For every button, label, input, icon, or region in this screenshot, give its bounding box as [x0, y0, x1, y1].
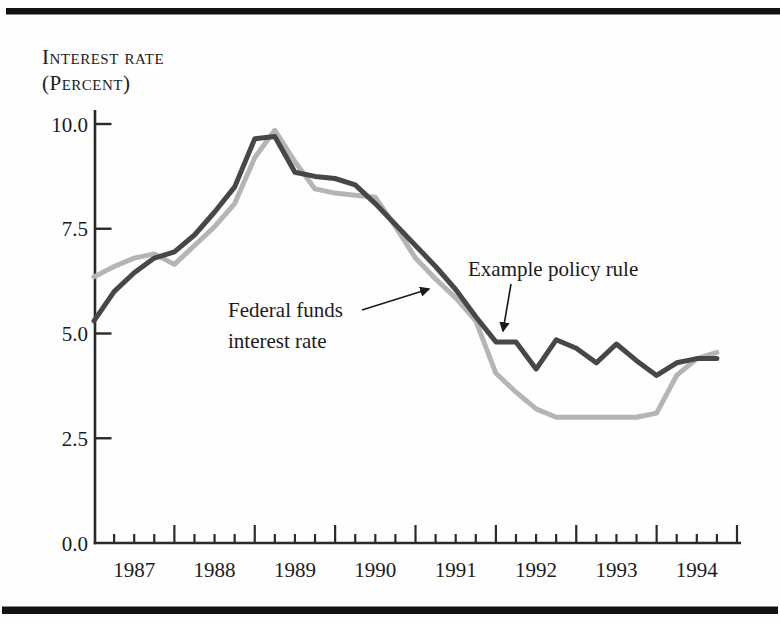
top-rule-bar: [6, 8, 780, 15]
series-line-policy-rule: [94, 137, 717, 376]
y-tick-label: 7.5: [62, 217, 88, 241]
interest-rate-chart: Interest rate (Percent) 10.07.55.02.50.0…: [0, 0, 780, 624]
annotations: Federal fundsinterest rateExample policy…: [228, 257, 638, 353]
federal-funds-label-text: interest rate: [228, 329, 327, 353]
figure-container: Interest rate (Percent) 10.07.55.02.50.0…: [0, 0, 780, 624]
x-year-label: 1989: [274, 558, 316, 582]
bottom-rule-bar: [2, 607, 778, 615]
axes: 10.07.55.02.50.0198719881989199019911992…: [51, 110, 741, 582]
x-year-label: 1991: [435, 558, 477, 582]
federal-funds-label-text: Federal funds: [228, 298, 343, 322]
chart-title-line2: (Percent): [42, 71, 131, 95]
example-policy-rule-label-text: Example policy rule: [468, 257, 638, 281]
y-tick-label: 0.0: [62, 532, 88, 556]
x-year-label: 1988: [194, 558, 236, 582]
federal-funds-label-arrow: [362, 289, 429, 310]
example-policy-rule-label: Example policy rule: [468, 257, 638, 331]
federal-funds-label: Federal fundsinterest rate: [228, 289, 429, 353]
chart-title-line1: Interest rate: [42, 45, 164, 69]
x-year-label: 1987: [113, 558, 155, 582]
x-year-label: 1992: [515, 558, 557, 582]
y-tick-label: 5.0: [62, 322, 88, 346]
x-year-label: 1994: [676, 558, 719, 582]
x-year-label: 1990: [354, 558, 396, 582]
y-tick-label: 10.0: [51, 113, 88, 137]
y-tick-label: 2.5: [62, 427, 88, 451]
example-policy-rule-label-arrow: [503, 284, 511, 331]
x-year-label: 1993: [595, 558, 637, 582]
